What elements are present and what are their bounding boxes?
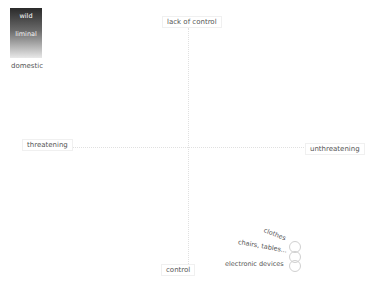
legend-gradient: wild liminal	[10, 8, 42, 58]
axis-label-right: unthreatening	[305, 143, 365, 155]
axis-label-bottom: control	[161, 264, 195, 276]
horizontal-axis	[70, 147, 304, 148]
legend-label-liminal: liminal	[10, 30, 42, 38]
item-marker-electronic-devices	[289, 260, 301, 272]
axis-label-left: threatening	[22, 139, 73, 151]
legend-label-wild: wild	[10, 12, 42, 20]
item-label-electronic-devices: electronic devices	[225, 260, 284, 268]
legend-label-domestic: domestic	[11, 62, 43, 70]
axis-label-top: lack of control	[162, 16, 222, 28]
item-label-clothes: clothes	[263, 226, 288, 242]
